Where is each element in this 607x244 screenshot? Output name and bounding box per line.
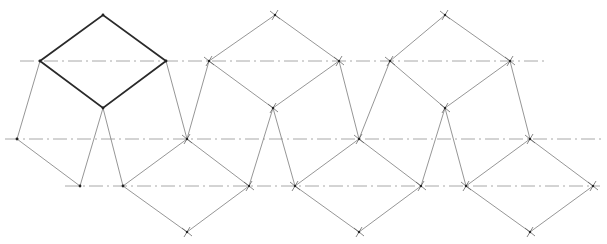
rhombus-net-diagram: [0, 0, 607, 244]
rhombi-group: [40, 15, 593, 232]
vertex-cross-icon: [182, 227, 192, 237]
vertex-marks-group: [16, 10, 598, 237]
vertex-cross-icon: [525, 227, 535, 237]
connectors-group: [17, 61, 530, 186]
vertex-cross-icon: [268, 103, 278, 113]
connector-zig-4: [421, 108, 466, 186]
vertex-cross-icon: [270, 10, 280, 20]
vertex-cross-icon: [416, 181, 426, 191]
vertex-dot: [102, 14, 105, 17]
vertex-dot: [39, 60, 42, 63]
vertex-dot: [165, 60, 168, 63]
connector-zig-left: [17, 61, 123, 186]
connector-zig-2: [249, 108, 295, 186]
vertex-dot: [122, 185, 125, 188]
connector-zig-1: [166, 61, 209, 139]
vertex-cross-icon: [354, 134, 364, 144]
diagram-canvas: [0, 0, 607, 244]
connector-zig-3: [339, 61, 390, 139]
vertex-dot: [102, 107, 105, 110]
vertex-dot: [79, 185, 82, 188]
vertex-dot: [16, 138, 19, 141]
connector-zig-5: [510, 61, 530, 139]
vertex-cross-icon: [354, 227, 364, 237]
